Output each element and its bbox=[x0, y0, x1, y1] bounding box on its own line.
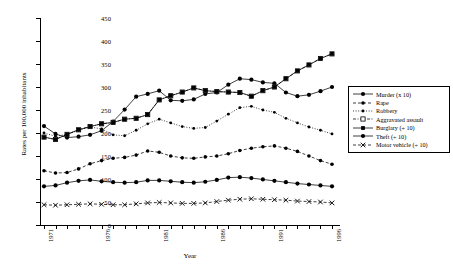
data-point bbox=[250, 105, 253, 108]
data-point bbox=[157, 98, 161, 102]
data-point bbox=[180, 156, 184, 160]
x-tick-mark bbox=[320, 225, 321, 229]
data-point bbox=[330, 184, 334, 188]
x-tick-mark bbox=[90, 225, 91, 229]
data-point bbox=[169, 121, 172, 124]
data-point bbox=[330, 85, 334, 89]
legend-item-1[interactable]: Rape bbox=[352, 98, 447, 106]
data-point bbox=[273, 85, 277, 89]
legend-swatch bbox=[352, 99, 374, 107]
data-point bbox=[284, 146, 288, 150]
data-point bbox=[53, 183, 57, 187]
data-point bbox=[146, 122, 149, 125]
x-tick-label: 1971 bbox=[47, 229, 54, 242]
legend-item-0[interactable]: Murder (x 10) bbox=[352, 90, 447, 98]
data-point bbox=[331, 133, 334, 136]
data-point bbox=[134, 95, 138, 99]
data-point bbox=[65, 171, 69, 175]
data-point bbox=[192, 157, 196, 161]
data-point bbox=[249, 94, 253, 98]
data-point bbox=[261, 89, 265, 93]
data-point bbox=[238, 149, 242, 153]
legend-label: Aggravated assault bbox=[376, 116, 423, 123]
data-point bbox=[361, 126, 365, 130]
data-point bbox=[227, 152, 231, 156]
data-point bbox=[123, 117, 127, 121]
data-point bbox=[43, 132, 46, 135]
data-point bbox=[296, 150, 300, 154]
data-point bbox=[100, 159, 104, 163]
data-point bbox=[238, 91, 242, 95]
data-point bbox=[100, 179, 104, 183]
data-point bbox=[318, 89, 322, 93]
series-line bbox=[44, 54, 332, 140]
data-point bbox=[146, 178, 150, 182]
data-point bbox=[361, 134, 365, 138]
data-point bbox=[296, 121, 299, 124]
x-axis-title: Year bbox=[150, 252, 230, 260]
data-point bbox=[261, 109, 264, 112]
legend-item-4[interactable]: Burglary (÷ 10) bbox=[352, 124, 447, 132]
data-point bbox=[42, 124, 46, 128]
data-point bbox=[192, 181, 196, 185]
series-2 bbox=[43, 105, 334, 138]
x-tick-label: 1986 bbox=[219, 229, 226, 242]
data-point bbox=[111, 121, 115, 125]
legend-label: Rape bbox=[376, 99, 389, 106]
data-point bbox=[88, 178, 92, 182]
x-tick-mark bbox=[228, 225, 229, 229]
data-point bbox=[308, 126, 311, 129]
x-tick-mark bbox=[125, 225, 126, 229]
data-point bbox=[76, 135, 80, 139]
data-point bbox=[42, 135, 46, 139]
data-point bbox=[203, 89, 207, 93]
y-tick-mark bbox=[36, 225, 40, 226]
series-line bbox=[44, 54, 332, 140]
data-point bbox=[215, 120, 218, 123]
data-point bbox=[192, 86, 196, 90]
series-line bbox=[44, 79, 332, 138]
plot-area bbox=[40, 18, 340, 225]
data-point bbox=[273, 111, 276, 114]
data-point bbox=[249, 176, 253, 180]
x-tick-mark bbox=[286, 225, 287, 229]
data-point bbox=[169, 154, 173, 158]
data-point bbox=[226, 83, 230, 87]
data-point bbox=[319, 129, 322, 132]
data-point bbox=[203, 155, 207, 159]
y-axis-title: Rates per 100,000 inhabitants bbox=[20, 34, 28, 194]
series-5 bbox=[42, 175, 334, 188]
data-point bbox=[65, 181, 69, 185]
x-tick-mark bbox=[332, 225, 333, 229]
data-point bbox=[77, 167, 81, 171]
data-point bbox=[53, 203, 58, 208]
data-point bbox=[215, 178, 219, 182]
data-point bbox=[361, 92, 365, 96]
series-line bbox=[44, 199, 332, 205]
legend-label: Burglary (÷ 10) bbox=[376, 124, 415, 131]
data-point bbox=[285, 117, 288, 120]
series-layer bbox=[40, 18, 340, 225]
data-point bbox=[318, 183, 322, 187]
data-point bbox=[100, 127, 103, 130]
x-tick-mark bbox=[159, 225, 160, 229]
data-point bbox=[192, 127, 195, 130]
legend-item-2[interactable]: Robbery bbox=[352, 107, 447, 115]
data-point bbox=[169, 94, 173, 98]
data-point bbox=[146, 113, 150, 117]
legend-item-6[interactable]: Motor vehicle (÷ 10) bbox=[352, 140, 447, 148]
data-point bbox=[134, 153, 138, 157]
data-point bbox=[295, 182, 299, 186]
x-tick-mark bbox=[217, 225, 218, 229]
legend-item-5[interactable]: Theft (÷ 10) bbox=[352, 132, 447, 140]
data-point bbox=[123, 181, 127, 185]
x-tick-mark bbox=[148, 225, 149, 229]
data-point bbox=[100, 122, 104, 126]
data-point bbox=[88, 125, 92, 129]
data-point bbox=[215, 90, 219, 94]
x-tick-mark bbox=[113, 225, 114, 229]
data-point bbox=[250, 146, 254, 150]
x-tick-mark bbox=[136, 225, 137, 229]
data-point bbox=[204, 126, 207, 129]
legend-item-3[interactable]: Aggravated assault bbox=[352, 115, 447, 123]
